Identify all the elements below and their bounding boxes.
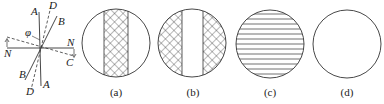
label-A-bottom: A <box>42 78 50 90</box>
caption-a: (a) <box>110 86 123 99</box>
panel-d: (d) <box>313 10 381 99</box>
figure-canvas: A D B φ N N C B A D (a) (b) <box>0 0 384 104</box>
label-B-top: B <box>58 15 65 27</box>
panel-a: (a) <box>82 0 150 99</box>
axis-diagram <box>5 6 76 90</box>
label-A-top: A <box>30 5 38 17</box>
label-phi: φ <box>25 26 31 38</box>
caption-d: (d) <box>341 86 354 99</box>
caption-b: (b) <box>187 86 200 99</box>
label-N-right: N <box>66 36 75 48</box>
label-D-bottom: D <box>25 85 34 97</box>
caption-c: (c) <box>264 86 277 99</box>
panel-c: (c) <box>230 10 310 99</box>
label-D-top: D <box>48 0 57 11</box>
label-N-left: N <box>3 47 12 59</box>
panel-b: (b) <box>150 0 235 99</box>
label-B-bottom: B <box>19 68 26 80</box>
label-C: C <box>66 56 74 68</box>
phi-leader <box>32 36 40 40</box>
